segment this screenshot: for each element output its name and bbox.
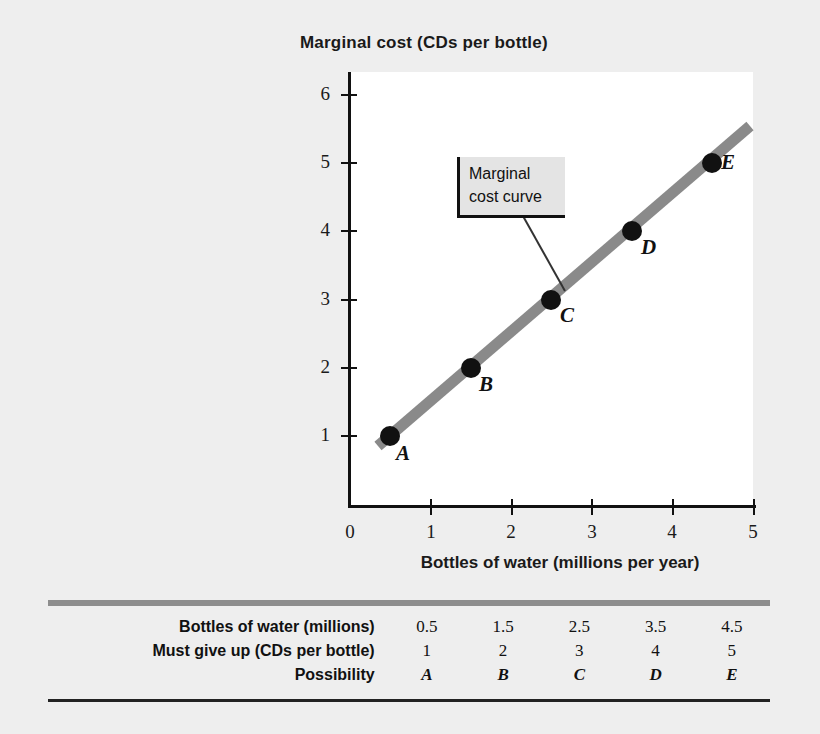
y-axis-line (348, 72, 351, 508)
table-cell: E (694, 663, 770, 687)
marginal-cost-curve-callout: Marginal cost curve (457, 157, 565, 218)
y-tick-1 (341, 435, 357, 437)
y-ticklabel-4: 4 (300, 219, 330, 241)
table-row: Bottles of water (millions) 0.5 1.5 2.5 … (48, 615, 770, 639)
table-cell: D (617, 663, 693, 687)
data-point-label-e: E (721, 150, 735, 175)
x-ticklabel-0: 0 (335, 521, 365, 543)
table-cell: A (389, 663, 465, 687)
table-cell: 5 (694, 639, 770, 663)
table-cell: C (541, 663, 617, 687)
figure-panel: Marginal cost (CDs per bottle) 6 5 4 3 2… (0, 0, 820, 734)
table-cell: 2.5 (541, 615, 617, 639)
y-tick-6 (341, 94, 357, 96)
data-point-label-d: D (641, 235, 656, 260)
x-tick-1 (430, 499, 432, 515)
y-tick-4 (341, 230, 357, 232)
table-cell: B (465, 663, 541, 687)
x-axis-line (348, 505, 756, 508)
table-cell: 1.5 (465, 615, 541, 639)
table-cell: 3.5 (617, 615, 693, 639)
y-tick-3 (341, 299, 357, 301)
table-bottom-rule (48, 699, 770, 702)
x-tick-5 (753, 499, 755, 515)
x-ticklabel-1: 1 (416, 521, 446, 543)
table-cell: 3 (541, 639, 617, 663)
x-ticklabel-5: 5 (738, 521, 768, 543)
y-ticklabel-3: 3 (300, 288, 330, 310)
table-top-divider (48, 600, 770, 606)
y-ticklabel-1: 1 (300, 424, 330, 446)
table-cell: 4 (617, 639, 693, 663)
data-point-label-c: C (560, 303, 574, 328)
x-ticklabel-4: 4 (657, 521, 687, 543)
x-axis-label: Bottles of water (millions per year) (350, 553, 770, 573)
x-tick-4 (672, 499, 674, 515)
data-point-label-a: A (396, 441, 410, 466)
callout-line-1: Marginal (469, 162, 565, 185)
y-tick-2 (341, 367, 357, 369)
callout-line-2: cost curve (469, 185, 565, 208)
table-cell: 2 (465, 639, 541, 663)
plot-area (350, 72, 753, 505)
x-tick-3 (591, 499, 593, 515)
table-row: Must give up (CDs per bottle) 1 2 3 4 5 (48, 639, 770, 663)
y-tick-5 (341, 162, 357, 164)
x-ticklabel-2: 2 (496, 521, 526, 543)
table-cell: 4.5 (694, 615, 770, 639)
data-point-label-b: B (479, 372, 493, 397)
table-cell: 1 (389, 639, 465, 663)
table-row: Possibility A B C D E (48, 663, 770, 687)
chart-title: Marginal cost (CDs per bottle) (300, 33, 720, 53)
y-ticklabel-5: 5 (300, 151, 330, 173)
table-cell: 0.5 (389, 615, 465, 639)
table-row-header: Bottles of water (millions) (48, 615, 389, 639)
y-ticklabel-2: 2 (300, 356, 330, 378)
data-table: Bottles of water (millions) 0.5 1.5 2.5 … (48, 615, 770, 687)
x-tick-2 (511, 499, 513, 515)
x-ticklabel-3: 3 (577, 521, 607, 543)
table-row-header: Must give up (CDs per bottle) (48, 639, 389, 663)
table-row-header: Possibility (48, 663, 389, 687)
y-ticklabel-6: 6 (300, 83, 330, 105)
